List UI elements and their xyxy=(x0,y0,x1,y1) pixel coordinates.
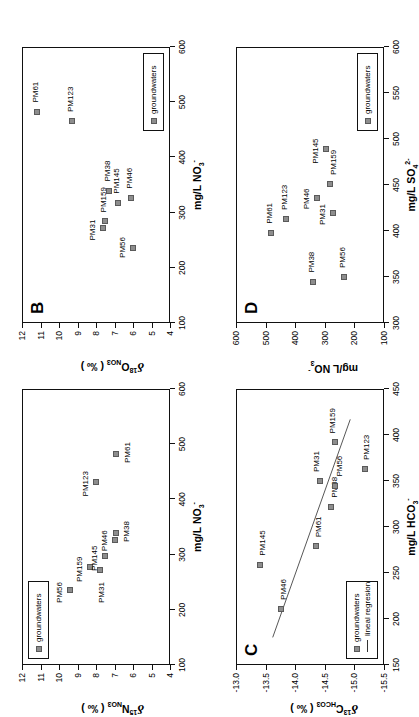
data-point-label: PM38 xyxy=(307,252,316,273)
x-tick-label-d: 300 xyxy=(391,305,401,341)
legend-entry: groundwaters xyxy=(362,60,373,124)
data-point[interactable] xyxy=(327,181,333,187)
x-tick-label-d: 600 xyxy=(391,29,401,65)
y-axis-title-sup: 15 xyxy=(130,709,138,716)
x-tick-label-d: 500 xyxy=(391,121,401,157)
y-axis-title-sup: 13 xyxy=(344,709,352,716)
data-point[interactable] xyxy=(283,216,289,222)
x-axis-title-sup: 2- xyxy=(404,158,411,164)
y-axis-title-sub: 3 xyxy=(311,360,315,367)
y-axis-title-text: mg/L NO xyxy=(314,363,358,375)
data-point-label: PM61 xyxy=(265,203,274,224)
y-tick-d xyxy=(384,323,385,328)
x-tick-d xyxy=(384,138,389,139)
x-axis-title-sub: 4 xyxy=(412,165,419,169)
y-tick-d xyxy=(236,323,237,328)
x-tick-d xyxy=(384,184,389,185)
y-axis-title-text: C xyxy=(336,703,344,715)
x-axis-title-text: mg/L SO xyxy=(405,169,417,212)
x-tick-label-d: 350 xyxy=(391,259,401,295)
data-point-label: PM145 xyxy=(311,131,320,171)
x-tick-d xyxy=(384,230,389,231)
y-tick-label-d: 400 xyxy=(290,331,300,365)
x-tick-d xyxy=(384,92,389,93)
data-point-label: PM123 xyxy=(280,185,289,210)
y-tick-label-d: 100 xyxy=(379,331,389,365)
data-point-label: PM46 xyxy=(302,179,311,219)
legend-label: groundwaters xyxy=(363,66,372,114)
y-axis-title-d: mg/L NO3- xyxy=(308,360,358,375)
delta-symbol: δ xyxy=(351,702,358,717)
y-axis-unit: ( ‰ ) xyxy=(81,703,107,715)
y-axis-title-c: δ13CHCO3 ( ‰ ) xyxy=(290,701,358,717)
x-tick-label-d: 400 xyxy=(391,213,401,249)
data-point[interactable] xyxy=(341,274,347,280)
data-point[interactable] xyxy=(268,230,274,236)
y-axis-title-a: δ15NNO3 ( ‰ ) xyxy=(81,701,144,717)
y-axis-unit: ( ‰ ) xyxy=(290,703,316,715)
delta-symbol: δ xyxy=(137,702,144,717)
y-tick-d xyxy=(325,323,326,328)
data-point-label: PM56 xyxy=(338,247,347,268)
y-tick-d xyxy=(295,323,296,328)
data-point[interactable] xyxy=(310,279,316,285)
x-tick-d xyxy=(384,46,389,47)
y-tick-label-d: 500 xyxy=(261,331,271,365)
x-tick-d xyxy=(384,276,389,277)
panel-letter-d: D xyxy=(242,302,262,314)
data-point-label: PM159 xyxy=(329,150,338,175)
legend-marker-swatch xyxy=(365,118,371,124)
data-point-label: PM31 xyxy=(318,195,327,235)
x-tick-label-d: 550 xyxy=(391,75,401,111)
data-point[interactable] xyxy=(330,210,336,216)
y-axis-title-sup: - xyxy=(308,368,310,375)
data-point[interactable] xyxy=(323,146,329,152)
x-axis-title-d: mg/L SO42- xyxy=(404,139,419,231)
x-tick-label-d: 450 xyxy=(391,167,401,203)
y-axis-title-text: N xyxy=(122,703,130,715)
y-tick-d xyxy=(266,323,267,328)
y-tick-d xyxy=(354,323,355,328)
legend-d: groundwaters xyxy=(357,53,378,131)
y-tick-label-d: 600 xyxy=(231,331,241,365)
